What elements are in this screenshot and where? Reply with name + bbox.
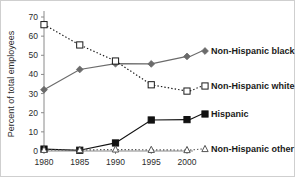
data-point	[112, 58, 118, 64]
legend-marker	[202, 48, 209, 55]
axes	[41, 11, 193, 154]
y-tick-label: 60	[29, 31, 39, 41]
data-point	[148, 117, 154, 123]
y-axis-title: Percent of total employees	[6, 30, 16, 137]
legend-marker	[202, 145, 208, 151]
axis-labels: 01020304050607019801985199019952000Perce…	[6, 12, 197, 167]
chart-figure: Non-Hispanic blackNon-Hispanic whiteHisp…	[0, 0, 295, 177]
legend-connector	[190, 51, 202, 56]
data-point	[184, 53, 191, 60]
legend-label: Non-Hispanic black	[211, 46, 295, 56]
data-point	[41, 86, 48, 93]
legend-item-non-hispanic-black: Non-Hispanic black	[190, 46, 295, 56]
y-tick-label: 70	[29, 12, 39, 22]
legend-marker	[202, 83, 208, 89]
y-tick-label: 20	[29, 108, 39, 118]
y-tick-label: 50	[29, 50, 39, 60]
data-series	[41, 22, 191, 154]
y-tick-label: 30	[29, 89, 39, 99]
data-point	[77, 42, 83, 48]
y-tick-label: 40	[29, 69, 39, 79]
legend-marker	[202, 111, 208, 117]
data-point	[148, 61, 155, 68]
legend-connector	[190, 114, 202, 120]
y-tick-label: 0	[33, 146, 38, 156]
x-tick-label: 1990	[106, 157, 125, 167]
x-tick-label: 1995	[142, 157, 161, 167]
data-point	[184, 88, 190, 94]
legend-item-non-hispanic-other: Non-Hispanic other	[190, 144, 295, 154]
chart-legend: Non-Hispanic blackNon-Hispanic whiteHisp…	[190, 46, 295, 154]
line-chart: Non-Hispanic blackNon-Hispanic whiteHisp…	[1, 1, 295, 177]
data-point	[76, 66, 83, 73]
series-non-hispanic-white	[41, 22, 190, 95]
x-tick-label: 1985	[70, 157, 89, 167]
legend-connector	[190, 86, 202, 91]
legend-item-hispanic: Hispanic	[190, 109, 249, 119]
legend-label: Non-Hispanic other	[211, 144, 295, 154]
data-point	[148, 82, 154, 88]
legend-connector	[190, 149, 202, 150]
legend-item-non-hispanic-white: Non-Hispanic white	[190, 81, 295, 91]
x-tick-label: 1980	[35, 157, 54, 167]
data-point	[41, 22, 47, 28]
y-tick-label: 10	[29, 127, 39, 137]
x-tick-label: 2000	[178, 157, 197, 167]
legend-label: Hispanic	[211, 109, 249, 119]
data-point	[184, 117, 190, 123]
legend-label: Non-Hispanic white	[211, 81, 295, 91]
